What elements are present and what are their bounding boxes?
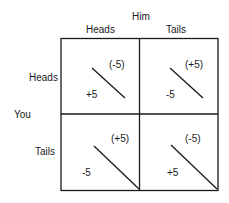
row-header-heads: Heads <box>29 72 58 84</box>
row-header-tails: Tails <box>35 146 55 158</box>
column-header-heads: Heads <box>86 24 115 36</box>
you-payoff: +5 <box>167 167 178 179</box>
him-payoff: (+5) <box>111 133 129 145</box>
him-payoff: (-5) <box>109 59 125 71</box>
you-payoff: -5 <box>166 89 175 101</box>
column-player-label: Him <box>132 11 150 23</box>
him-payoff: (-5) <box>185 133 201 145</box>
him-payoff: (+5) <box>185 59 203 71</box>
you-payoff: -5 <box>82 167 91 179</box>
column-header-tails: Tails <box>166 24 186 36</box>
you-payoff: +5 <box>86 89 97 101</box>
cell-diagonal <box>94 146 139 189</box>
row-player-label: You <box>14 109 31 121</box>
